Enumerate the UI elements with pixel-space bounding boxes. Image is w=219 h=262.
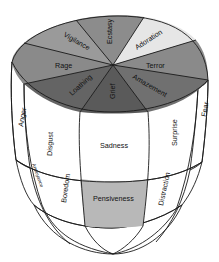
label-ecstasy: Ecstasy	[105, 18, 114, 44]
emotion-solid-diagram: Vigilance Ecstasy Adoration Terror Amaze…	[0, 0, 219, 262]
label-fear: Fear	[199, 101, 211, 118]
label-distraction: Distraction	[156, 171, 172, 206]
label-sadness: Sadness	[100, 141, 128, 150]
label-disgust: Disgust	[45, 132, 55, 156]
label-terror: Terror	[146, 61, 165, 70]
label-rage: Rage	[55, 61, 72, 70]
label-surprise: Surprise	[170, 119, 179, 146]
label-pensiveness: Pensiveness	[93, 194, 134, 203]
label-grief: Grief	[108, 83, 117, 99]
label-anger: Anger	[16, 106, 28, 127]
pensiveness-panel	[80, 179, 148, 228]
